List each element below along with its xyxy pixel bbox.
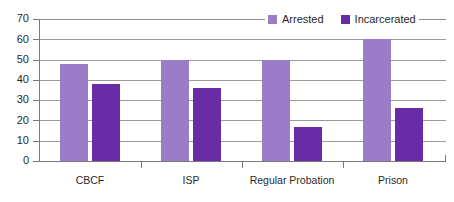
y-tick-60 — [33, 39, 40, 40]
y-axis-label-30: 30 — [1, 94, 29, 105]
y-axis-label-40: 40 — [1, 74, 29, 85]
y-tick-10 — [33, 141, 40, 142]
x-axis-line — [33, 161, 446, 162]
legend-swatch-arrested-icon — [268, 15, 277, 24]
y-tick-30 — [33, 100, 40, 101]
legend: Arrested Incarcerated — [265, 13, 419, 26]
x-axis-label-regular-probation: Regular Probation — [250, 174, 335, 186]
y-tick-70 — [33, 19, 40, 20]
x-axis-right-cap — [445, 155, 446, 162]
bar-regular-probation-incarcerated — [294, 127, 322, 162]
x-tick-3 — [343, 161, 344, 168]
legend-swatch-incarcerated-icon — [341, 15, 350, 24]
y-tick-40 — [33, 80, 40, 81]
bar-isp-incarcerated — [193, 88, 221, 161]
x-axis-label-cbcf: CBCF — [76, 174, 105, 186]
y-axis-label-10: 10 — [1, 135, 29, 146]
y-axis-label-50: 50 — [1, 54, 29, 65]
legend-entry-incarcerated: Incarcerated — [341, 14, 416, 25]
bar-cbcf-incarcerated — [92, 84, 120, 161]
y-tick-50 — [33, 60, 40, 61]
y-axis-label-60: 60 — [1, 34, 29, 45]
y-tick-20 — [33, 120, 40, 121]
bar-regular-probation-arrested — [262, 60, 290, 161]
legend-label-incarcerated: Incarcerated — [355, 14, 416, 25]
bar-prison-incarcerated — [395, 108, 423, 161]
bar-cbcf-arrested — [60, 64, 88, 161]
plot-area — [40, 19, 446, 161]
x-tick-1 — [141, 161, 142, 168]
bar-prison-arrested — [363, 39, 391, 161]
x-axis-label-isp: ISP — [183, 174, 200, 186]
bar-chart: 70 60 50 40 30 20 10 0 CBCF ISP Regular … — [0, 0, 454, 202]
y-tick-0 — [33, 161, 40, 162]
y-axis-label-70: 70 — [1, 13, 29, 24]
x-tick-2 — [242, 161, 243, 168]
legend-label-arrested: Arrested — [282, 14, 324, 25]
y-axis-label-20: 20 — [1, 115, 29, 126]
y-axis-label-0: 0 — [1, 155, 29, 166]
x-axis-label-prison: Prison — [378, 174, 408, 186]
bar-isp-arrested — [161, 60, 189, 161]
legend-entry-arrested: Arrested — [268, 14, 324, 25]
